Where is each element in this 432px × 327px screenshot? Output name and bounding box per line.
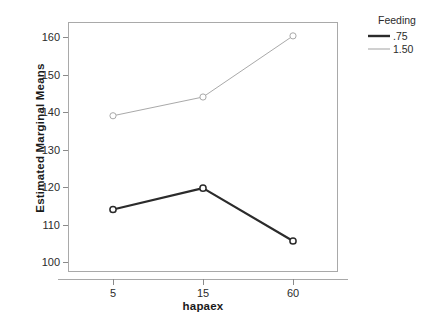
x-tick-mark	[203, 279, 204, 285]
legend-swatch-icon	[368, 32, 390, 40]
legend-swatch-icon	[368, 45, 390, 53]
y-tick-label: 100	[42, 254, 60, 270]
plot-area-frame	[68, 22, 338, 272]
legend: Feeding .75 1.50	[368, 14, 432, 55]
y-tick-mark	[63, 225, 68, 226]
y-tick-mark	[63, 150, 68, 151]
x-tick-label: 60	[273, 287, 313, 299]
legend-item-label: .75	[390, 30, 408, 42]
x-tick-mark	[113, 279, 114, 285]
x-axis-title: hapaex	[68, 300, 338, 312]
y-axis-title: Estimated Marginal Means	[34, 28, 46, 248]
legend-title: Feeding	[368, 14, 432, 26]
y-tick-mark	[63, 187, 68, 188]
legend-item-075[interactable]: .75	[368, 29, 432, 42]
x-tick-mark	[293, 279, 294, 285]
x-tick-label: 5	[93, 287, 133, 299]
legend-item-label: 1.50	[390, 43, 413, 55]
y-tick-mark	[63, 37, 68, 38]
y-tick-mark	[63, 262, 68, 263]
profile-plot-chart: 160 150 140 130 120 110 100 Estimated Ma…	[0, 0, 432, 327]
y-tick-mark	[63, 112, 68, 113]
y-tick-mark	[63, 75, 68, 76]
y-tick-100: 100	[0, 262, 68, 263]
legend-item-150[interactable]: 1.50	[368, 42, 432, 55]
x-tick-label: 15	[183, 287, 223, 299]
